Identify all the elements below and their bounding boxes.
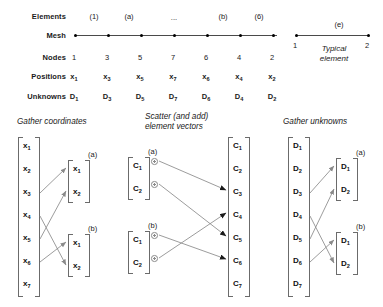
- typical-element-line: [297, 35, 369, 36]
- diagram-canvas: Elements Mesh Nodes Positions Unknowns (…: [0, 0, 383, 307]
- vector-entry: D2: [293, 165, 302, 173]
- vector-entry: x4: [23, 211, 31, 219]
- typical-node-dot-left: [295, 34, 298, 37]
- node-number: 3: [97, 53, 117, 62]
- vector-entry: x1: [23, 142, 31, 150]
- global-unknown-vector: D1 D2 D3 D4 D5 D6 D7: [288, 137, 310, 297]
- vector-entry: C1: [233, 142, 242, 150]
- mesh-node-dot: [140, 34, 143, 37]
- typical-element-caption-line2: element: [306, 54, 362, 64]
- unknown-symbol: D7: [163, 92, 183, 101]
- vector-entry: C6: [233, 257, 242, 265]
- panel-title-scatter-line2: element vectors: [145, 122, 203, 132]
- vector-entry: D5: [293, 234, 302, 242]
- element-load-vector-a: C1 C2: [128, 157, 150, 200]
- plus-circle-icon: [151, 181, 158, 188]
- unknown-symbol: D2: [262, 92, 282, 101]
- node-number: 1: [64, 53, 84, 62]
- vector-entry: D1: [293, 142, 302, 150]
- element-vector-tag-a: (a): [148, 147, 157, 156]
- typical-node-label-1: 1: [289, 41, 301, 50]
- element-tag-a: (a): [118, 12, 140, 21]
- vector-entry: C4: [233, 211, 242, 219]
- mesh-node-dot: [173, 34, 176, 37]
- panel-title-scatter-line1: Scatter (and add): [145, 112, 208, 122]
- bracket-right: [85, 160, 90, 203]
- element-vector-tag-b: (b): [88, 224, 97, 233]
- typical-element-tag: (e): [328, 20, 350, 29]
- position-symbol: x5: [130, 72, 150, 81]
- vector-entry: C5: [233, 234, 242, 242]
- bracket-right: [305, 137, 310, 297]
- position-symbol: x6: [196, 72, 216, 81]
- element-vector-tag-b: (b): [148, 221, 157, 230]
- row-label-nodes: Nodes: [8, 53, 66, 62]
- typical-element-caption-line1: Typical: [306, 44, 362, 54]
- vector-entry: C1: [133, 162, 142, 170]
- node-number: 7: [163, 53, 183, 62]
- element-coordinate-vector-a: x1 x2: [68, 160, 90, 203]
- element-unknown-vector-a: D1 D2: [336, 158, 358, 201]
- node-number: 4: [229, 53, 249, 62]
- vector-entry: D2: [341, 186, 350, 194]
- vector-entry: x7: [23, 280, 31, 288]
- plus-circle-icon: [151, 232, 158, 239]
- vector-entry: x1: [73, 165, 81, 173]
- vector-entry: D7: [293, 280, 302, 288]
- vector-entry: x6: [23, 257, 31, 265]
- bracket-right: [145, 231, 150, 274]
- bracket-right: [85, 234, 90, 277]
- position-symbol: x1: [64, 72, 84, 81]
- plus-circle-icon: [151, 158, 158, 165]
- position-symbol: x4: [229, 72, 249, 81]
- unknown-symbol: D6: [196, 92, 216, 101]
- position-symbol: x7: [163, 72, 183, 81]
- bracket-right: [245, 137, 250, 297]
- panel-title-gather-unknowns: Gather unknowns: [283, 117, 347, 127]
- vector-entry: x2: [73, 262, 81, 270]
- node-number: 6: [196, 53, 216, 62]
- vector-entry: D6: [293, 257, 302, 265]
- node-number: 5: [130, 53, 150, 62]
- row-label-elements: Elements: [8, 12, 66, 21]
- element-tag-b: (b): [212, 12, 234, 21]
- mesh-node-dot: [107, 34, 110, 37]
- vector-entry: D1: [341, 163, 350, 171]
- position-symbol: x2: [262, 72, 282, 81]
- element-vector-tag-a: (a): [356, 148, 365, 157]
- element-vector-tag-a: (a): [88, 150, 97, 159]
- vector-entry: C7: [233, 280, 242, 288]
- unknown-symbol: D3: [97, 92, 117, 101]
- vector-entry: C2: [233, 165, 242, 173]
- element-tag-ellipsis: ...: [163, 13, 185, 22]
- vector-entry: C3: [233, 188, 242, 196]
- vector-entry: x1: [73, 239, 81, 247]
- vector-entry: x2: [23, 165, 31, 173]
- bracket-right: [145, 157, 150, 200]
- vector-entry: C1: [133, 236, 142, 244]
- bracket-right: [353, 232, 358, 275]
- bracket-right: [353, 158, 358, 201]
- global-coordinate-vector: x1 x2 x3 x4 x5 x6 x7: [18, 137, 40, 297]
- row-label-unknowns: Unknowns: [8, 92, 66, 101]
- vector-entry: x3: [23, 188, 31, 196]
- position-symbol: x3: [97, 72, 117, 81]
- typical-node-dot-right: [367, 34, 370, 37]
- vector-entry: D4: [293, 211, 302, 219]
- mesh-node-dot: [74, 34, 77, 37]
- vector-entry: D1: [341, 237, 350, 245]
- element-vector-tag-b: (b): [356, 222, 365, 231]
- vector-entry: C2: [133, 185, 142, 193]
- mesh-node-dot: [206, 34, 209, 37]
- mesh-node-dot: [239, 34, 242, 37]
- unknown-symbol: D1: [64, 92, 84, 101]
- plus-circle-icon: [151, 255, 158, 262]
- vector-entry: D2: [341, 260, 350, 268]
- vector-entry: x2: [73, 188, 81, 196]
- element-unknown-vector-b: D1 D2: [336, 232, 358, 275]
- bracket-right: [35, 137, 40, 297]
- row-label-positions: Positions: [8, 72, 66, 81]
- element-tag-1: (1): [83, 12, 105, 21]
- vector-entry: D3: [293, 188, 302, 196]
- vector-entry: C2: [133, 259, 142, 267]
